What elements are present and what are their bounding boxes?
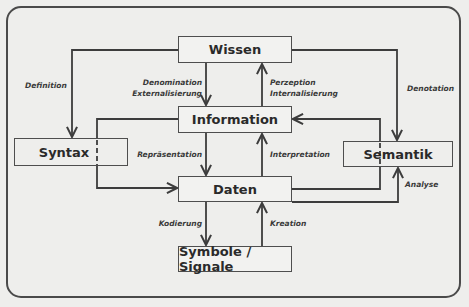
- node-daten-label: Daten: [213, 182, 257, 197]
- label-denomination-line1: Denomination: [130, 77, 202, 88]
- label-interpretation: Interpretation: [270, 149, 330, 160]
- node-symbole-signale: Symbole / Signale: [178, 246, 292, 272]
- label-perzeption: Perzeption Internalisierung: [270, 77, 338, 99]
- label-perzeption-line2: Internalisierung: [270, 88, 338, 99]
- label-definition: Definition: [25, 80, 67, 91]
- node-wissen: Wissen: [178, 36, 292, 63]
- node-daten: Daten: [178, 176, 292, 202]
- node-information: Information: [178, 106, 292, 133]
- node-information-label: Information: [192, 112, 278, 127]
- label-kodierung: Kodierung: [140, 218, 202, 229]
- node-syntax-label: Syntax: [39, 145, 89, 160]
- node-syntax: Syntax: [14, 138, 128, 166]
- edge-daten-semantik-upper: [292, 167, 380, 189]
- label-perzeption-line1: Perzeption: [270, 77, 338, 88]
- edge-analyse: [292, 168, 398, 202]
- label-denomination: Denomination Externalisierung: [130, 77, 202, 99]
- node-symbole-label: Symbole / Signale: [179, 244, 291, 274]
- edge-semantik-info: [293, 119, 380, 141]
- edge-syntax-daten: [97, 166, 177, 188]
- label-repraesentation: Repräsentation: [130, 149, 202, 160]
- label-denomination-line2: Externalisierung: [130, 88, 202, 99]
- label-analyse: Analyse: [405, 179, 438, 190]
- node-wissen-label: Wissen: [209, 42, 261, 57]
- node-semantik-label: Semantik: [363, 147, 432, 162]
- diagram-canvas: Wissen Information Daten Symbole / Signa…: [0, 0, 469, 307]
- node-semantik: Semantik: [343, 141, 453, 167]
- edge-info-syntax-top: [97, 119, 178, 138]
- label-denotation: Denotation: [407, 83, 454, 94]
- label-kreation: Kreation: [270, 218, 306, 229]
